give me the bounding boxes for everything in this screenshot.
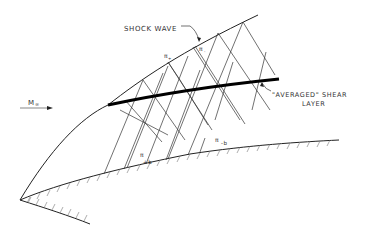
shock-wave-label: SHOCK WAVE [124, 25, 177, 33]
pi-plus-b-subscript: +b [143, 159, 152, 165]
shear-layer-leader [262, 83, 271, 91]
upper-wall-surface [20, 140, 339, 200]
pi-plus-b-label: π [140, 151, 144, 158]
shock-layer-diagram: SHOCK WAVE M ∞ "AVERAGED" SHEAR LAYER π … [0, 0, 375, 238]
pi-minus-subscript: - [204, 49, 206, 54]
pi-minus-b-subscript: -b [221, 140, 228, 146]
pi-plus-subscript: + [168, 56, 172, 61]
upper-wall-hatching [27, 140, 330, 203]
shock-leader-arrowhead [197, 37, 201, 42]
shock-wave-leader [181, 26, 199, 40]
freestream-mach-label: M [28, 99, 35, 107]
freestream-arrowhead-icon [47, 106, 53, 110]
pi-minus-b-label: π [215, 136, 219, 143]
shear-layer-label-line2: LAYER [302, 100, 325, 108]
pi-minus-label: π [199, 45, 203, 52]
shear-layer-label-line1: "AVERAGED" SHEAR [272, 91, 347, 99]
shear-leader-arrowhead [260, 82, 264, 87]
characteristic-lines [104, 22, 275, 174]
lower-wall-hatching [28, 197, 87, 221]
freestream-mach-subscript: ∞ [35, 101, 40, 107]
shock-wave-curve [20, 15, 258, 200]
lower-wall-surface [20, 200, 90, 224]
